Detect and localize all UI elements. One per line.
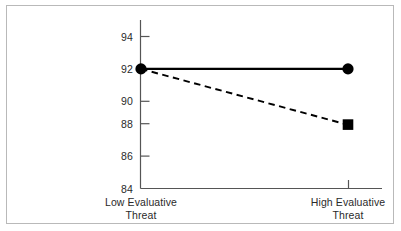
y-tick-label-88: 88 [104, 118, 133, 130]
y-tick-label-92: 92 [104, 63, 133, 75]
y-axis-ticks [141, 37, 150, 157]
y-tick-label-86: 86 [104, 150, 133, 162]
marker-square-high-threat [343, 119, 354, 130]
x-category-label-low-line-1: Low Evaluative [86, 196, 196, 209]
x-category-label-low-line-2: Threat [86, 209, 196, 222]
figure-container: 94 92 90 88 86 84 Low Evaluative Threat … [0, 0, 401, 231]
x-category-label-high-line-2: Threat [293, 209, 401, 222]
y-tick-label-90: 90 [104, 95, 133, 107]
marker-circle-low-threat [135, 63, 146, 74]
x-category-label-high-line-1: High Evaluative [293, 196, 401, 209]
marker-circle-high-threat [342, 63, 353, 74]
x-category-label-high-evaluative-threat: High Evaluative Threat [293, 196, 401, 221]
y-tick-label-94: 94 [104, 31, 133, 43]
series-dashed-line [141, 69, 348, 125]
x-category-label-low-evaluative-threat: Low Evaluative Threat [86, 196, 196, 221]
y-tick-label-84: 84 [104, 183, 133, 195]
